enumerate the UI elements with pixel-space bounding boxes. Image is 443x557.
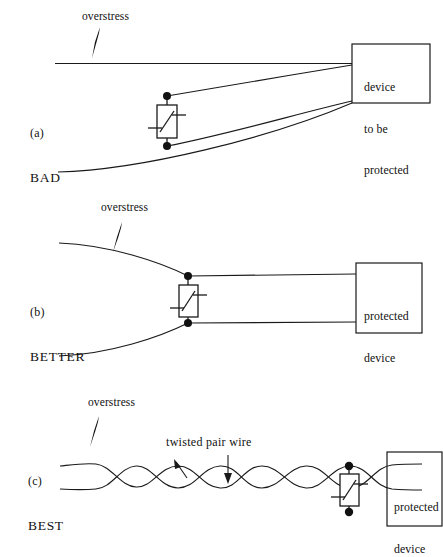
wire-a-varistor-top-to-box — [167, 65, 352, 96]
varistor-symbol-icon-a — [148, 92, 186, 150]
device-box-line-b-2: device — [364, 352, 409, 366]
panel-quality-c: BEST — [28, 518, 64, 534]
device-box-line-c-2: device — [394, 543, 439, 557]
terminal-dot-icon-b-top — [184, 272, 192, 280]
terminal-dot-icon-a-bottom — [163, 142, 171, 150]
lightning-bolt-icon-c — [90, 416, 99, 447]
panel-index-b: (b) — [30, 305, 85, 319]
annotation-arrow-2-c — [224, 455, 232, 484]
twisted-pair-wire-label: twisted pair wire — [166, 435, 252, 449]
panel-quality-b: BETTER — [30, 349, 85, 365]
wire-b-top-flare — [59, 243, 188, 276]
wire-b-parallel-bottom — [188, 322, 356, 323]
lightning-bolt-icon-b — [113, 222, 122, 252]
panel-label-c: (c) BEST — [28, 443, 64, 557]
terminal-dot-icon-c-top — [345, 462, 353, 470]
wire-b-parallel-top — [188, 274, 356, 276]
wire-c-strand-2 — [60, 464, 422, 490]
overstress-label-c: overstress — [88, 396, 135, 410]
wire-a-varistor-bottom-to-box — [167, 101, 352, 146]
varistor-symbol-icon-b — [170, 272, 207, 327]
terminal-dot-icon-a-top — [163, 92, 171, 100]
overstress-label-b: overstress — [101, 201, 148, 215]
annotation-arrow-1-c — [174, 459, 187, 478]
panel-label-b: (b) BETTER — [30, 274, 85, 396]
device-box-line-b-1: protected — [364, 310, 409, 324]
lightning-bolt-icon-a — [92, 27, 100, 58]
device-box-text-c: protected device — [394, 473, 439, 557]
device-box-text-b: protected device — [364, 282, 409, 393]
device-box-a — [352, 44, 430, 103]
terminal-dot-icon-b-bottom — [184, 319, 192, 327]
terminal-dot-icon-c-bottom — [345, 508, 353, 516]
device-box-line-c-1: protected — [394, 501, 439, 515]
panel-index-c: (c) — [28, 474, 64, 488]
